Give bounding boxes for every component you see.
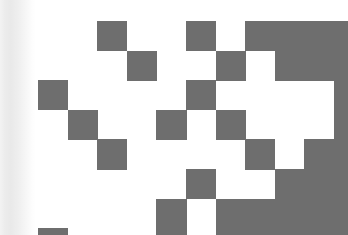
qr-module xyxy=(275,169,305,199)
qr-module xyxy=(216,199,246,229)
qr-module xyxy=(186,80,216,110)
qr-module xyxy=(97,21,127,51)
qr-module xyxy=(216,228,246,235)
qr-module xyxy=(38,80,68,110)
qr-module xyxy=(334,21,348,51)
qr-module xyxy=(275,228,305,235)
qr-module xyxy=(97,139,127,169)
qr-module xyxy=(156,228,186,235)
qr-module xyxy=(304,51,334,81)
qr-module xyxy=(304,169,334,199)
qr-module xyxy=(127,51,157,81)
qr-module xyxy=(245,139,275,169)
qr-module xyxy=(304,21,334,51)
qr-module xyxy=(186,169,216,199)
qr-module xyxy=(216,110,246,140)
qr-module xyxy=(245,199,275,229)
qr-module xyxy=(245,21,275,51)
qr-module xyxy=(156,110,186,140)
qr-module xyxy=(216,51,246,81)
qr-module xyxy=(334,228,348,235)
qr-module xyxy=(245,228,275,235)
qr-module xyxy=(275,51,305,81)
qr-code-canvas xyxy=(0,0,348,235)
qr-module xyxy=(334,80,348,110)
qr-module xyxy=(156,199,186,229)
qr-module xyxy=(38,228,68,235)
qr-module xyxy=(304,228,334,235)
qr-module xyxy=(68,110,98,140)
qr-module xyxy=(304,139,334,169)
qr-module xyxy=(334,51,348,81)
qr-module xyxy=(334,139,348,169)
qr-module xyxy=(304,199,334,229)
qr-module xyxy=(334,169,348,199)
qr-module-grid xyxy=(0,0,348,235)
qr-module xyxy=(334,199,348,229)
qr-module xyxy=(186,21,216,51)
qr-module xyxy=(334,110,348,140)
qr-module xyxy=(275,199,305,229)
qr-module xyxy=(275,21,305,51)
